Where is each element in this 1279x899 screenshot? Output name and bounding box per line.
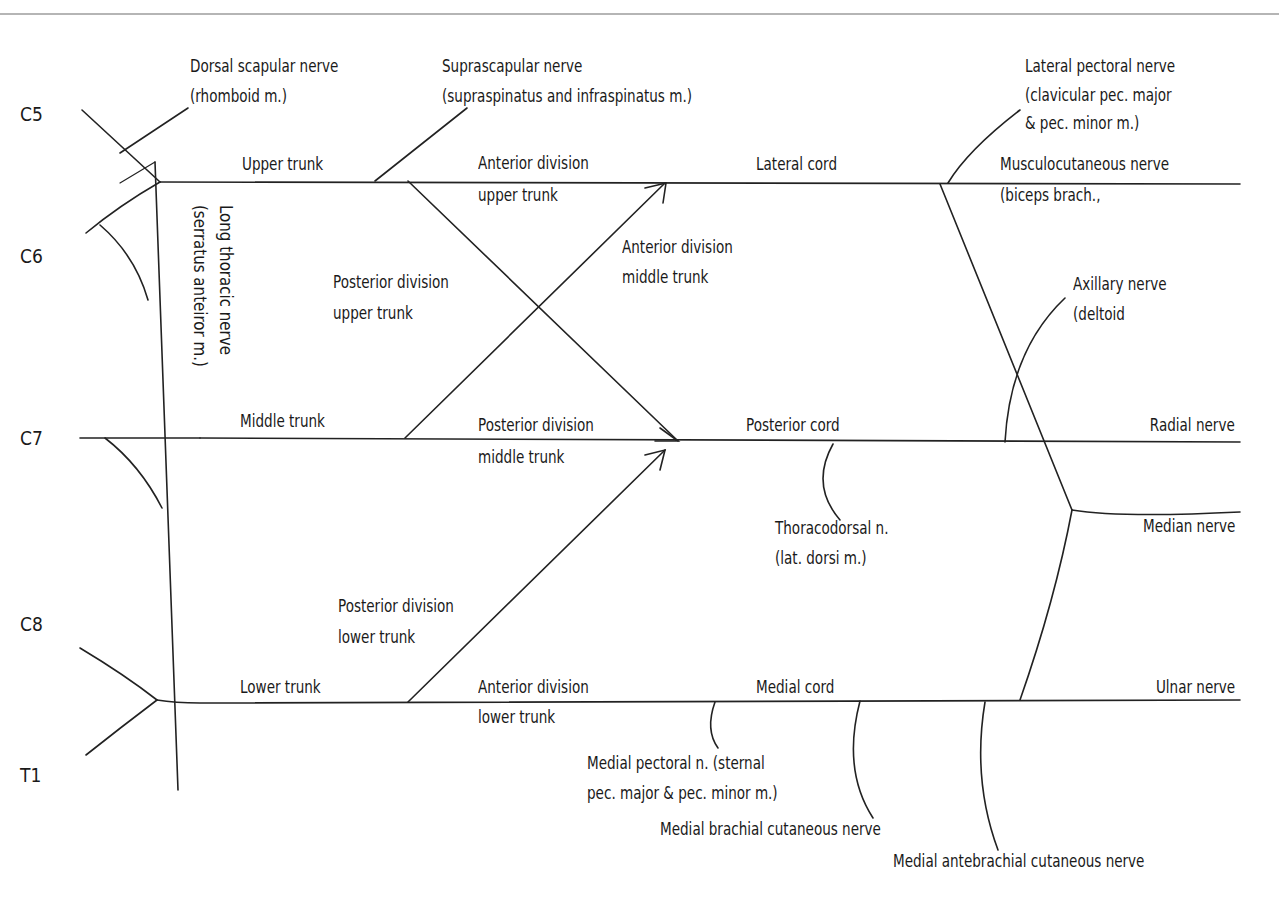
long-thoracic-nerve-line [155, 162, 178, 790]
post-div-middle-label-1: Posterior division [478, 414, 594, 437]
ant-div-lower-label-2: lower trunk [478, 706, 555, 729]
axillary-label-1: Axillary nerve [1073, 273, 1167, 296]
medial-pectoral-label-1: Medial pectoral n. (sternal [587, 752, 765, 775]
musculocutaneous-label-2: (biceps brach., [1000, 184, 1100, 207]
lateral-cord-label: Lateral cord [756, 153, 837, 176]
c5-root-line [82, 110, 160, 182]
ulnar-nerve-label: Ulnar nerve [1156, 676, 1235, 699]
long-thoracic-label-1: Long thoracic nerve [214, 205, 237, 355]
upper-trunk-label: Upper trunk [242, 153, 323, 176]
medial-antebrachial-cutaneous-line [981, 702, 998, 850]
medial-cord-label: Medial cord [756, 676, 834, 699]
thoracodorsal-label-2: (lat. dorsi m.) [775, 547, 867, 570]
ant-div-middle-label-1: Anterior division [622, 236, 733, 259]
medial-brachial-cutaneous-line [853, 701, 873, 818]
posterior-cord-label: Posterior cord [746, 414, 840, 437]
suprascapular-line [375, 108, 467, 181]
medial-pectoral-label-2: pec. major & pec. minor m.) [587, 782, 778, 805]
root-label-c7: C7 [20, 427, 43, 450]
thoracodorsal-line [823, 444, 840, 520]
lateral-pectoral-label-2: (clavicular pec. major [1025, 84, 1172, 107]
post-div-upper-label-1: Posterior division [333, 271, 449, 294]
dorsal-scapular-line [120, 108, 188, 153]
dorsal-scapular-label-2: (rhomboid m.) [190, 85, 287, 108]
root-label-t1: T1 [20, 764, 41, 787]
lateral-pectoral-label-3: & pec. minor m.) [1025, 112, 1139, 135]
medial-antebrachial-cutaneous-label: Medial antebrachial cutaneous nerve [893, 850, 1144, 873]
medial-brachial-cutaneous-label: Medial brachial cutaneous nerve [660, 818, 881, 841]
c8-root-line [80, 648, 157, 700]
root-label-c8: C8 [20, 613, 43, 636]
suprascapular-label-1: Suprascapular nerve [442, 55, 582, 78]
c7-long-thoracic-twig [105, 438, 162, 508]
lateral-pectoral-label-1: Lateral pectoral nerve [1025, 55, 1175, 78]
middle-trunk-line [200, 438, 1240, 442]
ant-div-middle-label-2: middle trunk [622, 266, 708, 289]
lower-trunk-label: Lower trunk [240, 676, 321, 699]
c6-root-line [86, 182, 160, 233]
post-div-lower-label-1: Posterior division [338, 595, 454, 618]
t1-root-line [86, 700, 157, 755]
dorsal-scapular-label-1: Dorsal scapular nerve [190, 55, 338, 78]
ant-div-upper-label-2: upper trunk [478, 184, 558, 207]
anterior-division-middle-trunk-line [405, 183, 665, 438]
ant-div-upper-label-1: Anterior division [478, 152, 589, 175]
post-div-lower-label-2: lower trunk [338, 626, 415, 649]
median-nerve-label: Median nerve [1143, 515, 1235, 538]
root-label-c6: C6 [20, 245, 43, 268]
ant-div-lower-label-1: Anterior division [478, 676, 589, 699]
medial-pectoral-line [711, 702, 718, 748]
posterior-division-upper-trunk-line [408, 181, 678, 441]
median-nerve-line [1072, 510, 1240, 515]
posterior-division-lower-trunk-line [408, 450, 665, 702]
axillary-label-2: (deltoid [1073, 303, 1125, 326]
lower-trunk-line [157, 700, 1240, 703]
thoracodorsal-label-1: Thoracodorsal n. [775, 517, 888, 540]
suprascapular-label-2: (supraspinatus and infraspinatus m.) [442, 85, 692, 108]
radial-nerve-label: Radial nerve [1150, 414, 1235, 437]
medial-root-median-line [1020, 510, 1072, 700]
root-label-c5: C5 [20, 103, 43, 126]
post-div-upper-label-2: upper trunk [333, 302, 413, 325]
musculocutaneous-label-1: Musculocutaneous nerve [1000, 153, 1169, 176]
post-div-middle-label-2: middle trunk [478, 446, 564, 469]
long-thoracic-label-2: (serratus anteiror m.) [188, 205, 211, 367]
middle-trunk-label: Middle trunk [240, 410, 325, 433]
c6-long-thoracic-twig [100, 225, 148, 300]
lateral-root-median-line [940, 184, 1072, 510]
